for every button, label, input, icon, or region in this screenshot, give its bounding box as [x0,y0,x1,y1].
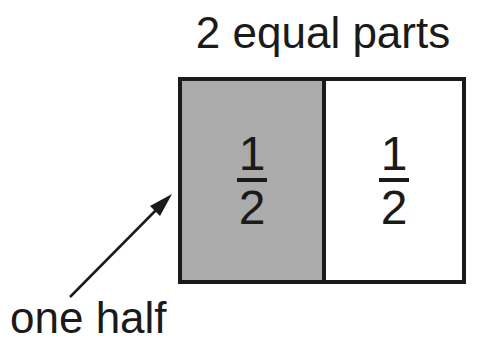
numerator: 1 [381,132,408,176]
unshaded-half: 1 2 [326,81,462,280]
numerator: 1 [239,132,266,176]
fraction-left: 1 2 [237,132,267,230]
whole-rectangle: 1 2 1 2 [178,77,466,284]
fraction-right: 1 2 [379,132,409,230]
diagram-title: 2 equal parts [178,4,468,62]
one-half-label: one half [10,294,167,341]
denominator: 2 [239,186,266,230]
shaded-half: 1 2 [182,81,326,280]
denominator: 2 [381,186,408,230]
